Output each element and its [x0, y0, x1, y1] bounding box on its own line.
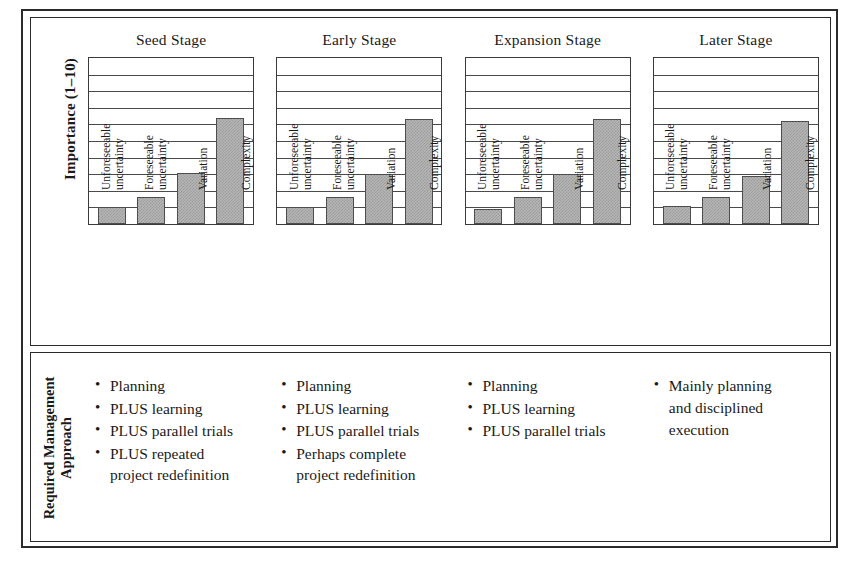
list-item-text: PLUS parallel trials	[296, 422, 419, 439]
x-axis-label-slot: Variation	[179, 188, 207, 288]
x-axis-label-line: Unforeseeable	[664, 124, 677, 190]
x-axis-labels: UnforeseeableuncertaintyForeseeableuncer…	[82, 188, 260, 288]
x-axis-label-slot: Complexity	[598, 188, 626, 288]
list-item-text: PLUS learning	[110, 400, 203, 417]
x-axis-label-line: Complexity	[428, 136, 441, 190]
approach-column-2: PlanningPLUS learningPLUS parallel trial…	[271, 353, 457, 541]
x-axis-label-line: uncertainty	[489, 124, 502, 190]
x-axis-label: Unforeseeableuncertainty	[476, 124, 501, 190]
x-axis-label-line: uncertainty	[300, 124, 313, 190]
x-axis-label-line: Variation	[385, 148, 398, 190]
list-item: Planning	[281, 375, 451, 397]
chart-title: Early Stage	[270, 31, 448, 49]
chart-panel-3: Expansion StageUnforeseeableuncertaintyF…	[459, 18, 637, 225]
x-axis-label: Complexity	[804, 136, 817, 190]
x-axis-label: Unforeseeableuncertainty	[100, 124, 125, 190]
list-item-continuation: and disciplined	[669, 397, 824, 419]
x-axis-labels: UnforeseeableuncertaintyForeseeableuncer…	[647, 188, 825, 288]
x-axis-label: Unforeseeableuncertainty	[664, 124, 689, 190]
list-item-text: Mainly planning	[669, 377, 772, 394]
approach-columns: PlanningPLUS learningPLUS parallel trial…	[85, 353, 830, 541]
x-axis-label-line: uncertainty	[677, 124, 690, 190]
x-axis-label-line: Variation	[573, 148, 586, 190]
x-axis-label: Foreseeableuncertainty	[519, 135, 544, 190]
approach-row-label-line-2: Approach	[58, 353, 75, 543]
x-axis-label-slot: Unforeseeableuncertainty	[469, 188, 497, 288]
x-axis-label: Unforeseeableuncertainty	[288, 124, 313, 190]
list-item-text: PLUS parallel trials	[483, 422, 606, 439]
chart-panel-2: Early StageUnforeseeableuncertaintyFores…	[270, 18, 448, 225]
list-item: PLUS repeatedproject redefinition	[95, 443, 265, 486]
list-item: Planning	[468, 375, 638, 397]
list-item-text: Planning	[110, 377, 165, 394]
x-axis-label: Variation	[385, 148, 398, 190]
chart-panel-4: Later StageUnforeseeableuncertaintyFores…	[647, 18, 825, 225]
x-axis-label-slot: Complexity	[786, 188, 814, 288]
chart-title: Seed Stage	[82, 31, 260, 49]
charts-panel: Importance (1–10) Seed StageUnforeseeabl…	[30, 17, 831, 346]
list-item: PLUS parallel trials	[95, 420, 265, 442]
x-axis-label-slot: Complexity	[222, 188, 250, 288]
approach-panel: Required Management Approach PlanningPLU…	[30, 352, 831, 542]
x-axis-label-line: uncertainty	[343, 135, 356, 190]
list-item: Mainly planningand disciplined	[654, 375, 824, 418]
x-axis-label-line: Foreseeable	[707, 135, 720, 190]
x-axis-label: Variation	[197, 148, 210, 190]
x-axis-label-slot: Unforeseeableuncertainty	[281, 188, 309, 288]
list-item-text: PLUS learning	[296, 400, 389, 417]
x-axis-label-line: Unforeseeable	[288, 124, 301, 190]
list-item-text: Perhaps complete	[296, 445, 406, 462]
x-axis-label-slot: Foreseeableuncertainty	[324, 188, 352, 288]
list-item: PLUS learning	[468, 398, 638, 420]
bullet-list: Mainly planningand disciplinedexecution	[654, 375, 824, 441]
list-item-text: Planning	[483, 377, 538, 394]
x-axis-label-line: Complexity	[804, 136, 817, 190]
x-axis-label-slot: Foreseeableuncertainty	[700, 188, 728, 288]
approach-column-3: PlanningPLUS learningPLUS parallel trial…	[458, 353, 644, 541]
chart-title: Expansion Stage	[459, 31, 637, 49]
x-axis-label-line: Unforeseeable	[476, 124, 489, 190]
figure-frame: Importance (1–10) Seed StageUnforeseeabl…	[21, 9, 838, 548]
x-axis-label-line: Unforeseeable	[100, 124, 113, 190]
approach-column-1: PlanningPLUS learningPLUS parallel trial…	[85, 353, 271, 541]
approach-column-4: Mainly planningand disciplinedexecution	[644, 353, 830, 541]
bullet-list: PlanningPLUS learningPLUS parallel trial…	[468, 375, 638, 442]
list-item-continuation: project redefinition	[296, 464, 451, 486]
approach-row-label-line-1: Required Management	[41, 353, 58, 543]
list-item: Perhaps completeproject redefinition	[281, 443, 451, 486]
x-axis-label-slot: Variation	[367, 188, 395, 288]
list-item-text: PLUS parallel trials	[110, 422, 233, 439]
list-item: PLUS parallel trials	[281, 420, 451, 442]
x-axis-label-line: Complexity	[240, 136, 253, 190]
x-axis-label-slot: Complexity	[410, 188, 438, 288]
x-axis-label-slot: Unforeseeableuncertainty	[93, 188, 121, 288]
x-axis-label-slot: Foreseeableuncertainty	[512, 188, 540, 288]
list-item-continuation: project redefinition	[110, 464, 265, 486]
x-axis-label-slot: Variation	[743, 188, 771, 288]
x-axis-label: Complexity	[428, 136, 441, 190]
x-axis-label: Foreseeableuncertainty	[707, 135, 732, 190]
x-axis-label: Complexity	[616, 136, 629, 190]
x-axis-label-line: uncertainty	[720, 135, 733, 190]
x-axis-label-line: Variation	[761, 148, 774, 190]
list-item-text: Planning	[296, 377, 351, 394]
x-axis-label: Variation	[761, 148, 774, 190]
list-item: execution	[654, 419, 824, 441]
chart-title: Later Stage	[647, 31, 825, 49]
chart-panel-1: Seed StageUnforeseeableuncertaintyForese…	[82, 18, 260, 225]
x-axis-label-line: uncertainty	[532, 135, 545, 190]
x-axis-label-slot: Foreseeableuncertainty	[136, 188, 164, 288]
x-axis-label-line: Variation	[197, 148, 210, 190]
charts-row: Seed StageUnforeseeableuncertaintyForese…	[77, 18, 830, 345]
list-item: PLUS learning	[281, 398, 451, 420]
x-axis-label: Foreseeableuncertainty	[331, 135, 356, 190]
bullet-list: PlanningPLUS learningPLUS parallel trial…	[95, 375, 265, 486]
x-axis-label-line: Foreseeable	[331, 135, 344, 190]
approach-row-label: Required Management Approach	[41, 353, 79, 543]
x-axis-label: Complexity	[240, 136, 253, 190]
x-axis-label-line: Complexity	[616, 136, 629, 190]
list-item: Planning	[95, 375, 265, 397]
bullet-list: PlanningPLUS learningPLUS parallel trial…	[281, 375, 451, 486]
x-axis-label: Variation	[573, 148, 586, 190]
x-axis-label-line: Foreseeable	[519, 135, 532, 190]
